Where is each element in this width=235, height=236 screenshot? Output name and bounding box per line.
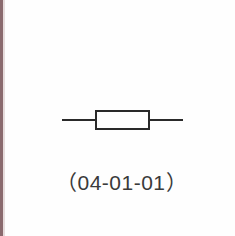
symbol-code-label: （04-01-01） — [0, 166, 235, 196]
resistor-symbol-icon — [0, 0, 235, 236]
resistor-body — [96, 111, 149, 129]
